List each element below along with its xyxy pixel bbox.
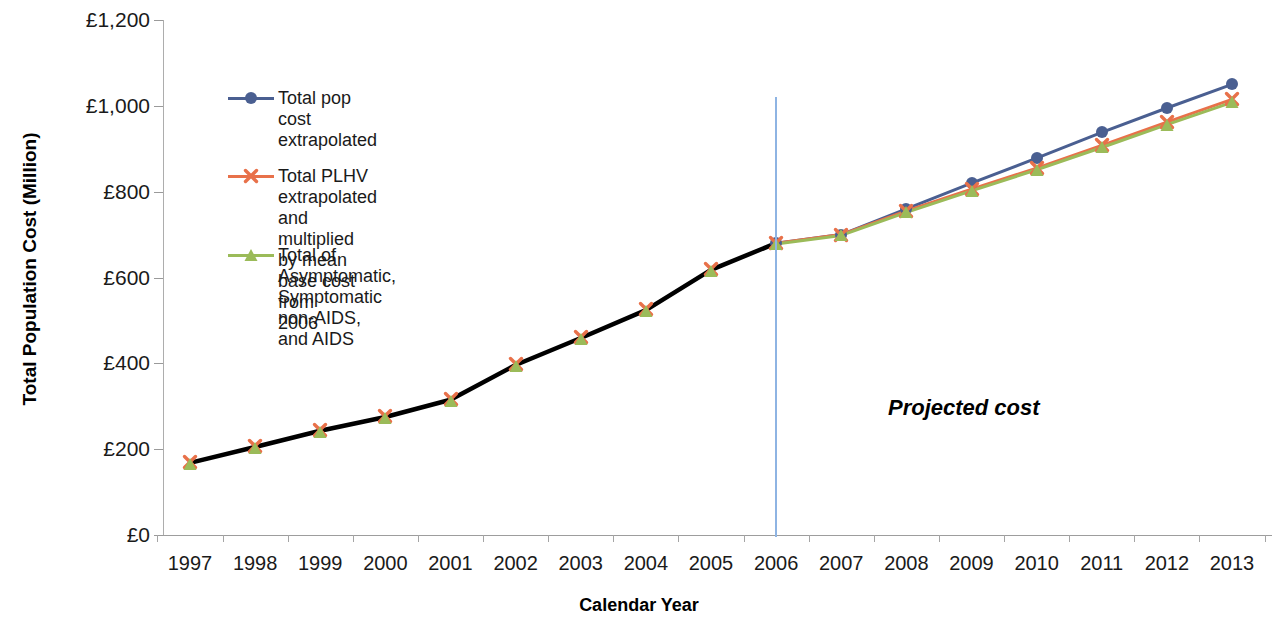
marker-triangle	[1029, 163, 1044, 177]
marker-triangle	[183, 457, 198, 471]
legend-label: Total of Asymptomatic, Symptomatic non-A…	[274, 245, 396, 350]
legend-item[interactable]: Total of Asymptomatic, Symptomatic non-A…	[228, 245, 396, 350]
marker-triangle	[1094, 140, 1109, 154]
marker-triangle	[1225, 95, 1240, 109]
marker-triangle	[834, 228, 849, 242]
marker-triangle	[899, 205, 914, 219]
marker-triangle	[964, 184, 979, 198]
marker-triangle	[1159, 118, 1174, 132]
marker-triangle	[248, 441, 263, 455]
marker-triangle	[573, 332, 588, 346]
marker-triangle	[508, 359, 523, 373]
marker-triangle	[244, 248, 259, 262]
marker-x	[243, 168, 260, 185]
chart-container: Total Population Cost (Million) Calendar…	[0, 0, 1278, 628]
projected-cost-annotation: Projected cost	[888, 395, 1040, 421]
legend-item[interactable]: Total pop cost extrapolated	[228, 88, 377, 151]
marker-triangle	[638, 304, 653, 318]
legend-label: Total pop cost extrapolated	[274, 88, 377, 151]
marker-triangle	[313, 425, 328, 439]
legend-swatch	[228, 89, 274, 107]
legend-swatch	[228, 246, 274, 264]
projection-start-divider	[775, 97, 777, 537]
marker-triangle	[704, 264, 719, 278]
legend-swatch	[228, 167, 274, 185]
marker-triangle	[378, 411, 393, 425]
marker-triangle	[443, 394, 458, 408]
marker-circle	[1161, 102, 1173, 114]
marker-circle	[245, 92, 257, 104]
marker-circle	[1226, 78, 1238, 90]
